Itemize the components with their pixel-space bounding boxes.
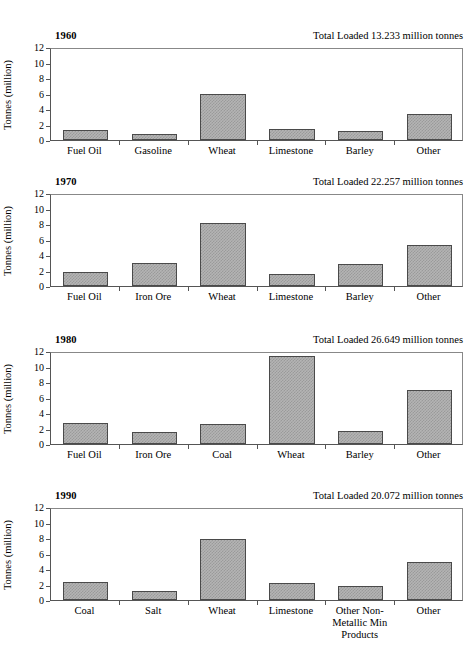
x-axis-category-label: Gasoline: [119, 145, 188, 157]
x-axis-category-label: Salt: [119, 605, 188, 617]
bar: [63, 130, 108, 140]
y-axis-tick-label: 12: [28, 503, 44, 513]
panel-header: 1980Total Loaded 26.649 million tonnes: [0, 334, 471, 348]
bar: [63, 582, 108, 600]
y-axis-title-text: Tonnes (million): [2, 59, 13, 129]
bar: [269, 129, 314, 140]
y-axis-tick-label: 10: [28, 205, 44, 215]
x-axis-category-label: Wheat: [188, 605, 257, 617]
x-axis-category-label: Coal: [50, 605, 119, 617]
panel-header: 1990Total Loaded 20.072 million tonnes: [0, 490, 471, 504]
y-axis-title: Tonnes (million): [0, 508, 14, 601]
x-axis-category-label: Barley: [325, 449, 394, 461]
bar: [63, 423, 108, 444]
panel-year-label: 1990: [55, 490, 77, 501]
panel-total-loaded-label: Total Loaded 26.649 million tonnes: [313, 334, 463, 345]
x-axis-category-label: Fuel Oil: [50, 145, 119, 157]
x-axis-category-label: Other: [394, 291, 463, 303]
y-axis-tick-label: 10: [28, 519, 44, 529]
bar: [132, 432, 177, 444]
y-axis-tick-label: 2: [28, 267, 44, 277]
y-axis-tick-mark: [46, 601, 50, 602]
bar: [132, 591, 177, 600]
y-axis-tick-label: 12: [28, 43, 44, 53]
x-axis-category-label: Limestone: [257, 291, 326, 303]
bar: [132, 134, 177, 140]
bar: [338, 431, 383, 444]
bar: [338, 264, 383, 286]
y-axis-tick-label: 10: [28, 363, 44, 373]
panel-total-loaded-label: Total Loaded 20.072 million tonnes: [313, 490, 463, 501]
panel-year-label: 1980: [55, 334, 77, 345]
y-axis-title-text: Tonnes (million): [2, 363, 13, 433]
y-axis-tick-label: 4: [28, 409, 44, 419]
bar: [200, 539, 245, 600]
y-axis-tick-label: 2: [28, 121, 44, 131]
y-axis-tick-mark: [46, 445, 50, 446]
bar: [200, 223, 245, 286]
y-axis-tick-label: 6: [28, 236, 44, 246]
x-axis-category-label: Iron Ore: [119, 291, 188, 303]
y-axis-title-text: Tonnes (million): [2, 205, 13, 275]
panel-header: 1970Total Loaded 22.257 million tonnes: [0, 176, 471, 190]
y-axis-tick-label: 4: [28, 105, 44, 115]
y-axis-tick-label: 10: [28, 59, 44, 69]
bar: [338, 586, 383, 600]
bar: [407, 245, 452, 286]
bar: [407, 562, 452, 600]
y-axis-tick-label: 12: [28, 347, 44, 357]
x-axis-category-label: Barley: [325, 291, 394, 303]
y-axis-tick-label: 0: [28, 596, 44, 606]
x-axis-category-label: Limestone: [257, 145, 326, 157]
y-axis-tick-label: 4: [28, 251, 44, 261]
x-axis-category-label: Fuel Oil: [50, 291, 119, 303]
bar: [200, 424, 245, 444]
x-axis-category-label: Barley: [325, 145, 394, 157]
y-axis-tick-label: 0: [28, 440, 44, 450]
x-axis-category-label: Other: [394, 449, 463, 461]
y-axis-tick-label: 4: [28, 565, 44, 575]
bar: [269, 583, 314, 600]
y-axis-tick-label: 0: [28, 282, 44, 292]
bar: [63, 272, 108, 286]
panel-year-label: 1960: [55, 30, 77, 41]
panel-header: 1960Total Loaded 13.233 million tonnes: [0, 30, 471, 44]
plot-area: [50, 194, 463, 287]
x-axis-category-label: Other: [394, 145, 463, 157]
y-axis-title-text: Tonnes (million): [2, 519, 13, 589]
panel-year-label: 1970: [55, 176, 77, 187]
x-axis-category-label: Wheat: [188, 291, 257, 303]
y-axis-tick-label: 8: [28, 74, 44, 84]
plot-area: [50, 48, 463, 141]
y-axis-tick-label: 8: [28, 534, 44, 544]
bar: [407, 114, 452, 140]
bar: [200, 94, 245, 140]
x-axis-category-label: Other Non- Metallic Min Products: [325, 605, 394, 641]
y-axis-tick-mark: [46, 141, 50, 142]
y-axis-tick-label: 2: [28, 425, 44, 435]
bar: [407, 390, 452, 444]
y-axis-title: Tonnes (million): [0, 48, 14, 141]
figure-four-panel-bar-charts: 1960Total Loaded 13.233 million tonnesTo…: [0, 0, 471, 662]
bar: [269, 356, 314, 444]
x-axis-category-label: Wheat: [188, 145, 257, 157]
bar: [269, 274, 314, 286]
x-axis-category-label: Wheat: [257, 449, 326, 461]
x-axis-category-label: Other: [394, 605, 463, 617]
y-axis-title: Tonnes (million): [0, 194, 14, 287]
panel-total-loaded-label: Total Loaded 22.257 million tonnes: [313, 176, 463, 187]
y-axis-tick-label: 8: [28, 220, 44, 230]
y-axis-tick-label: 6: [28, 394, 44, 404]
y-axis-tick-label: 0: [28, 136, 44, 146]
x-axis-category-label: Fuel Oil: [50, 449, 119, 461]
y-axis-tick-label: 2: [28, 581, 44, 591]
y-axis-tick-label: 6: [28, 550, 44, 560]
y-axis-tick-label: 12: [28, 189, 44, 199]
plot-area: [50, 352, 463, 445]
y-axis-tick-mark: [46, 287, 50, 288]
y-axis-tick-label: 8: [28, 378, 44, 388]
x-axis-category-label: Coal: [188, 449, 257, 461]
y-axis-title: Tonnes (million): [0, 352, 14, 445]
bar: [338, 131, 383, 140]
panel-total-loaded-label: Total Loaded 13.233 million tonnes: [313, 30, 463, 41]
